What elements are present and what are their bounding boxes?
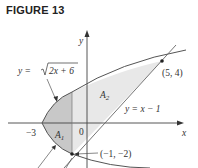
diagram-canvas: y x 0 −3 y = 2x + 6 y = x − 1 (5, 4) (−1… (0, 0, 198, 168)
x-axis-label: x (181, 128, 187, 138)
point-5-4 (160, 59, 164, 63)
curve-label-radicand: 2x + 6 (49, 66, 74, 76)
y-axis-label: y (78, 36, 84, 46)
y-axis-arrow-icon (85, 30, 90, 37)
curve-label-prefix: y = (17, 66, 31, 76)
x-axis-arrow-icon (177, 121, 184, 126)
point-neg1-neg2-label: (−1, −2) (100, 149, 131, 160)
point-neg1-neg2 (70, 152, 74, 156)
point-label-leader (76, 153, 98, 154)
origin-label: 0 (79, 127, 84, 137)
point-5-4-label: (5, 4) (162, 68, 183, 79)
tick-neg3-label: −3 (26, 128, 36, 138)
lower-leader (38, 147, 54, 168)
line-label: y = x − 1 (124, 104, 161, 114)
lower-leader-2 (66, 158, 72, 168)
